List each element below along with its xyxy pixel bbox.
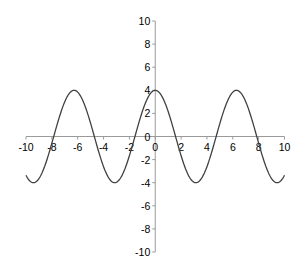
x-axis-ticks: -10-8-6-4-20246810 (18, 137, 290, 153)
x-tick-label: -10 (18, 141, 33, 153)
y-tick-label: -4 (141, 177, 150, 189)
x-tick-label: -6 (73, 141, 82, 153)
x-tick-label: 0 (152, 141, 158, 153)
line-chart: -10-8-6-4-20246810 -10-8-6-4-20246810 (0, 0, 303, 277)
y-tick-label: 6 (144, 61, 150, 73)
y-tick-label: 0 (144, 131, 150, 143)
y-tick-label: 8 (144, 38, 150, 50)
y-tick-label: 2 (144, 107, 150, 119)
x-tick-label: 10 (279, 141, 291, 153)
x-tick-label: -4 (99, 141, 108, 153)
y-tick-label: -8 (141, 223, 150, 235)
y-tick-label: -10 (135, 246, 150, 258)
y-tick-label: 10 (139, 15, 151, 27)
x-tick-label: 6 (230, 141, 236, 153)
y-tick-label: -2 (141, 154, 150, 166)
x-tick-label: 4 (204, 141, 210, 153)
y-tick-label: -6 (141, 200, 150, 212)
